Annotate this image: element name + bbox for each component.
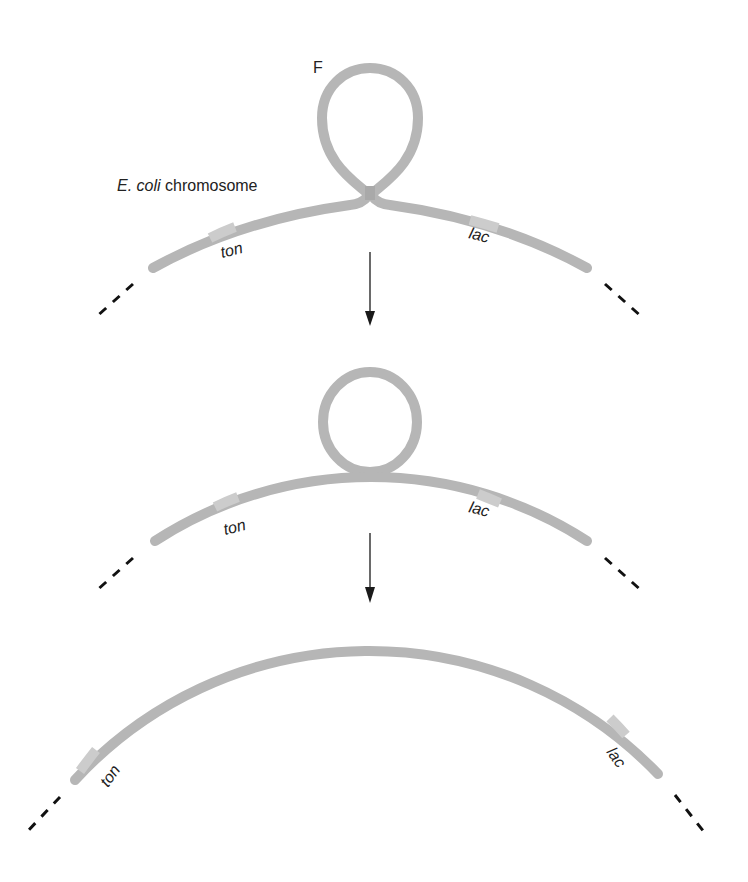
right-continuation-dashes — [675, 795, 708, 837]
left-continuation-dashes — [25, 797, 60, 834]
step1-group: F E. coli chromosome ton lac — [95, 59, 643, 318]
f-plasmid-label: F — [313, 59, 323, 76]
left-continuation-dashes — [95, 284, 133, 318]
arrow-step2-to-step3 — [365, 533, 375, 603]
chromosome-label-word: chromosome — [161, 177, 258, 194]
gene-label-lac: lac — [467, 224, 491, 245]
step3-group: ton lac — [25, 651, 708, 837]
arrow-step1-to-step2 — [365, 252, 375, 326]
pinch-junction — [365, 186, 375, 200]
chromosome-arc-with-integrated-f — [75, 651, 658, 780]
gene-label-lac: lac — [467, 498, 491, 519]
f-integration-diagram: F E. coli chromosome ton lac ton lac ton — [0, 0, 748, 882]
chromosome-label: E. coli chromosome — [117, 177, 258, 194]
f-plasmid-circle — [323, 372, 417, 472]
gene-label-ton: ton — [222, 516, 248, 538]
chromosome-label-species: E. coli — [117, 177, 161, 194]
right-continuation-dashes — [605, 284, 643, 318]
chromosome-left-arm — [153, 196, 368, 268]
right-continuation-dashes — [605, 558, 643, 592]
left-continuation-dashes — [95, 558, 133, 592]
arrowhead-icon — [365, 587, 375, 603]
gene-label-ton: ton — [97, 762, 124, 790]
arrowhead-icon — [365, 311, 375, 326]
f-plasmid-loop — [322, 68, 418, 192]
gene-label-ton: ton — [219, 239, 245, 261]
step2-group: ton lac — [95, 372, 643, 592]
